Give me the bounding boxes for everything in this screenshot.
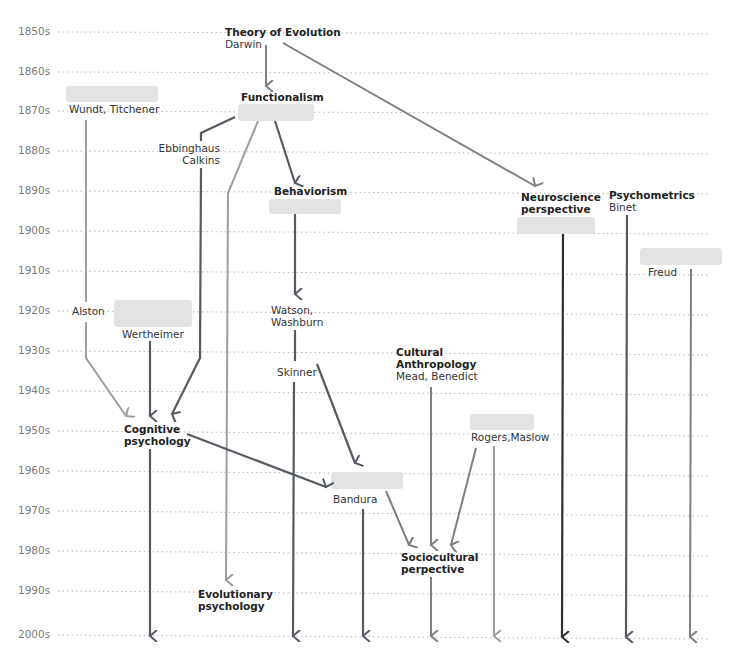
node-behaviorism: Behaviorism xyxy=(274,185,347,197)
node-title: psychology xyxy=(124,435,191,447)
node-people: Binet xyxy=(609,201,636,213)
arrow-skinner-to-bandura xyxy=(317,364,355,463)
arrow-psychometrics-to-2000s xyxy=(626,215,627,637)
node-psychometrics: Psychometrics Binet xyxy=(609,189,695,213)
node-people: Wertheimer xyxy=(122,328,184,340)
node-freud: Freud xyxy=(648,266,677,278)
decade-label: 1900s xyxy=(18,224,50,236)
node-skinner: Skinner xyxy=(277,366,317,378)
node-title: Anthropology xyxy=(396,358,477,370)
node-evolutionary-psychology: Evolutionary psychology xyxy=(198,588,273,612)
decade-label: 1910s xyxy=(18,264,50,276)
node-title: psychology xyxy=(198,600,265,612)
bandura-box xyxy=(331,472,403,489)
node-people: Calkins xyxy=(182,154,220,166)
node-title: Evolutionary xyxy=(198,588,273,600)
node-title: Cultural xyxy=(396,346,443,358)
humanistic-box xyxy=(470,414,534,430)
node-people: Rogers,Maslow xyxy=(471,431,550,443)
behaviorism-box xyxy=(269,199,341,214)
node-title: Cognitive xyxy=(124,423,180,435)
decade-label: 1890s xyxy=(18,184,50,196)
connections xyxy=(86,43,691,637)
node-title: Behaviorism xyxy=(274,185,347,197)
node-theory-of-evolution: Theory of Evolution Darwin xyxy=(225,26,341,50)
decade-label: 1950s xyxy=(18,424,50,436)
wundt-box xyxy=(66,86,158,102)
arrow-cognitive-to-bandura xyxy=(187,434,326,487)
decade-label: 1980s xyxy=(18,544,50,556)
node-title: Sociocultural xyxy=(401,551,478,563)
decade-label: 1940s xyxy=(18,384,50,396)
node-functionalism: Functionalism xyxy=(241,91,324,103)
node-sociocultural: Sociocultural perpective xyxy=(401,551,478,575)
line-functionalism-to-ebbinghaus xyxy=(201,117,235,141)
node-title: Psychometrics xyxy=(609,189,695,201)
node-title: perpective xyxy=(401,563,464,575)
node-title: perspective xyxy=(521,203,591,215)
node-cultural-anthropology: Cultural Anthropology Mead, Benedict xyxy=(396,346,478,382)
decade-label: 1870s xyxy=(18,104,50,116)
node-wertheimer: Wertheimer xyxy=(122,328,184,340)
arrow-skinner-to-2000s xyxy=(293,382,294,636)
psychology-timeline-diagram: 1850s 1860s 1870s 1880s 1890s 1900s 1910… xyxy=(0,0,731,662)
decade-axis: 1850s 1860s 1870s 1880s 1890s 1900s 1910… xyxy=(18,25,50,640)
node-bandura: Bandura xyxy=(333,493,377,505)
arrow-functionalism-to-evolutionary xyxy=(226,121,258,580)
node-title: Functionalism xyxy=(241,91,324,103)
arrow-evolution-to-neuroscience xyxy=(283,43,535,186)
arrow-ebbinghaus-to-cognitive xyxy=(172,168,201,414)
node-people: Wundt, Titchener xyxy=(69,103,160,115)
decade-label: 1970s xyxy=(18,504,50,516)
node-title: Theory of Evolution xyxy=(225,26,341,38)
node-cognitive-psychology: Cognitive psychology xyxy=(124,423,191,447)
functionalism-box xyxy=(238,104,314,121)
node-people: Bandura xyxy=(333,493,377,505)
wertheimer-box xyxy=(114,300,192,327)
node-people: Alston xyxy=(72,305,105,317)
decade-label: 1880s xyxy=(18,144,50,156)
node-people: Ebbinghaus xyxy=(159,142,220,154)
node-people: Watson, xyxy=(271,304,313,316)
node-people: Skinner xyxy=(277,366,317,378)
node-people: Darwin xyxy=(225,38,262,50)
arrow-neuroscience-to-2000s xyxy=(562,234,563,637)
node-title: Neuroscience xyxy=(521,191,601,203)
decade-label: 2000s xyxy=(18,628,50,640)
decade-label: 1930s xyxy=(18,344,50,356)
node-humanistic: Rogers,Maslow xyxy=(471,431,550,443)
decade-label: 1990s xyxy=(18,584,50,596)
node-ebbinghaus: Ebbinghaus Calkins xyxy=(159,142,220,166)
decade-label: 1860s xyxy=(18,65,50,77)
node-people: Freud xyxy=(648,266,677,278)
node-people: Washburn xyxy=(271,316,323,328)
freud-box xyxy=(640,248,722,265)
decade-label: 1920s xyxy=(18,304,50,316)
neuroscience-box xyxy=(517,217,595,234)
node-wundt: Wundt, Titchener xyxy=(69,103,160,115)
node-neuroscience: Neuroscience perspective xyxy=(521,191,601,215)
arrow-freud-to-2000s xyxy=(690,269,691,637)
node-alston: Alston xyxy=(72,305,105,317)
arrow-alston-to-cognitive xyxy=(86,322,126,416)
decade-label: 1850s xyxy=(18,25,50,37)
arrow-bandura-to-sociocultural xyxy=(386,491,409,545)
arrow-humanistic-to-sociocultural xyxy=(451,448,476,545)
decade-label: 1960s xyxy=(18,464,50,476)
node-people: Mead, Benedict xyxy=(396,370,478,382)
node-watson: Watson, Washburn xyxy=(271,304,323,328)
